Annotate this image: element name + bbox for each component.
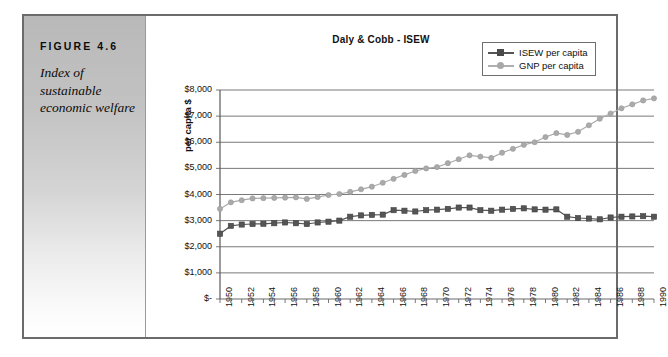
figure-caption-text: Index of sustainable economic welfare — [40, 64, 140, 117]
figure-frame: FIGURE 4.6 Index of sustainable economic… — [22, 14, 618, 339]
figure-caption-panel: FIGURE 4.6 Index of sustainable economic… — [24, 16, 146, 337]
plot-wrap: per capita $ $8,000$7,000$6,000$5,000$4,… — [146, 16, 664, 341]
plot-svg — [146, 16, 664, 341]
chart-area: Daly & Cobb - ISEW ISEW per capita GNP p… — [146, 16, 616, 337]
figure-number-label: FIGURE 4.6 — [40, 40, 118, 52]
